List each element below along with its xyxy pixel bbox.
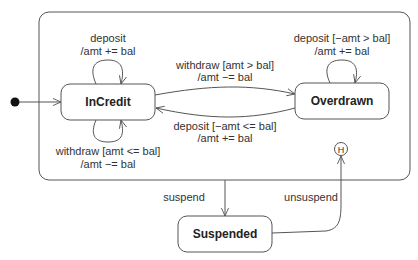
history-pseudostate: H (335, 143, 348, 156)
state-suspended[interactable]: Suspended (178, 216, 272, 252)
transition-label: unsuspend (284, 191, 338, 203)
state-suspended-label: Suspended (193, 227, 258, 241)
transition-label-line2: /amt −= bal (197, 71, 252, 83)
state-overdrawn[interactable]: Overdrawn (295, 83, 389, 119)
transition-label: suspend (163, 191, 205, 203)
transition-label-line1: deposit [−amt > bal] (294, 32, 391, 44)
transition-label-line1: deposit [−amt <= bal] (173, 120, 276, 132)
state-diagram: InCredit Overdrawn Suspended H deposit /… (0, 0, 418, 260)
transition-suspend: suspend (163, 180, 225, 216)
state-overdrawn-label: Overdrawn (311, 94, 374, 108)
state-incredit[interactable]: InCredit (61, 84, 155, 120)
initial-dot-icon (11, 98, 20, 107)
transition-label-line2: /amt += bal (80, 45, 135, 57)
transition-label-line2: /amt += bal (314, 45, 369, 57)
transition-label-line1: withdraw [amt <= bal] (55, 145, 161, 157)
transition-label-line1: withdraw [amt > bal] (175, 59, 274, 71)
history-label: H (338, 145, 345, 155)
transition-label-line2: /amt −= bal (80, 158, 135, 170)
transition-label-line2: /amt += bal (197, 132, 252, 144)
state-incredit-label: InCredit (85, 95, 130, 109)
transition-label-line1: deposit (90, 32, 125, 44)
